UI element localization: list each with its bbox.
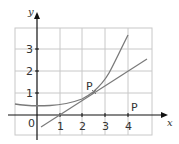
chart: y x 0 1 2 3 4 1 2 3 P P [0,0,179,144]
y-axis-arrow-icon [34,12,40,19]
x-tick-4: 4 [125,120,132,133]
grid-frame [15,28,152,135]
point-p-label: P [86,80,93,93]
p-label: P [131,101,138,114]
x-axis-label: x [167,117,173,128]
x-tick-3: 3 [102,120,109,133]
y-tick-2: 2 [26,65,33,78]
grid-vertical [60,28,128,135]
y-axis-label: y [27,6,34,17]
origin-label: 0 [28,117,35,130]
x-tick-1: 1 [57,120,64,133]
y-tick-1: 1 [26,87,33,100]
x-tick-2: 2 [79,120,86,133]
y-tick-3: 3 [26,43,33,56]
